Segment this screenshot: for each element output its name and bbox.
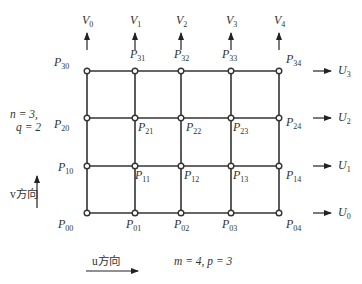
control-point-label: P12 [184,169,199,186]
control-point-label: P31 [130,48,145,65]
v-direction-label: v方向 [10,187,38,201]
v-curve-label: V0 [82,14,93,31]
control-point-node [132,115,138,121]
control-point-label: P23 [233,121,248,138]
control-point-node [276,115,282,121]
control-point-label: P20 [54,118,69,135]
u-direction-arrows [313,71,331,213]
control-point-label: P22 [186,121,201,138]
u-direction-label: u方向 [92,254,120,268]
control-point-label: P14 [286,169,301,186]
control-point-node [178,210,184,216]
control-point-label: P00 [58,218,73,235]
m-p-label: m = 4, p = 3 [174,254,232,268]
control-point-label: P33 [222,48,237,65]
control-point-label: P21 [138,121,153,138]
control-point-label: P32 [174,48,189,65]
u-curve-label: U3 [338,64,351,81]
control-point-label: P34 [286,53,301,70]
control-point-node [178,115,184,121]
control-point-label: P30 [54,56,69,73]
control-point-node [84,68,90,74]
control-point-node [228,68,234,74]
control-point-node [84,115,90,121]
u-curve-label: U2 [338,111,351,128]
control-point-label: P02 [174,218,189,235]
control-point-label: P04 [286,218,301,235]
control-point-node [228,210,234,216]
control-point-label: P03 [222,218,237,235]
u-curve-label: U0 [338,206,351,223]
control-point-label: P24 [286,116,301,133]
control-point-label: P13 [233,169,248,186]
q-value-label: q = 2 [16,120,41,134]
v-curve-label: V2 [176,14,187,31]
control-point-node [276,68,282,74]
v-curve-label: V3 [226,14,237,31]
control-point-node [84,210,90,216]
v-curve-label: V4 [274,14,285,31]
control-point-node [132,210,138,216]
control-point-node [276,210,282,216]
v-curve-label: V1 [130,14,141,31]
control-point-node [276,163,282,169]
control-point-node [178,68,184,74]
control-point-nodes [84,68,282,216]
control-point-node [84,163,90,169]
control-point-label: P10 [58,161,73,178]
u-curve-label: U1 [338,159,351,176]
control-point-grid-diagram [0,0,362,284]
control-point-node [132,68,138,74]
control-point-label: P01 [126,218,141,235]
grid-lines [87,71,279,213]
control-point-label: P11 [135,169,150,186]
n-value-label: n = 3, [10,107,38,121]
control-point-node [178,163,184,169]
